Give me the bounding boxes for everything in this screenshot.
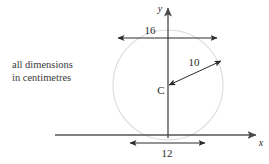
top-chord-label: 16 [145, 24, 157, 36]
center-point-label: C [157, 84, 164, 96]
bottom-chord-label: 12 [162, 147, 173, 159]
figure-canvas: 16 12 10 C y x all dimensions in centime… [0, 0, 269, 164]
y-axis-label: y [157, 3, 163, 14]
radius-label: 10 [189, 56, 201, 68]
geometry-figure: 16 12 10 C y x all dimensions in centime… [0, 0, 269, 164]
note-line-2: in centimetres [12, 72, 71, 83]
note-line-1: all dimensions [12, 59, 73, 70]
x-axis-label: x [258, 137, 264, 148]
